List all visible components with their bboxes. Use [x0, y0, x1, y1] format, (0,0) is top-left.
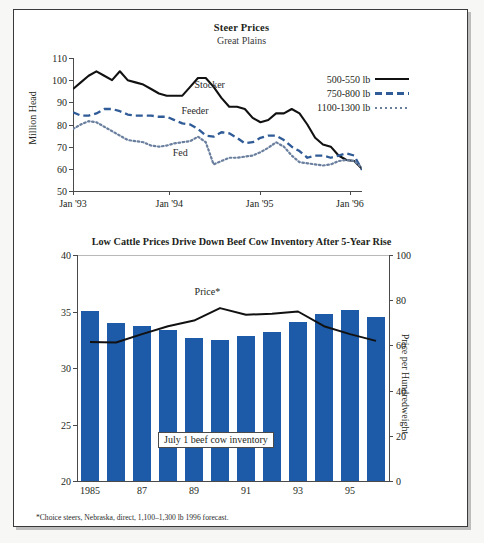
bottom-x-tick-label: 93: [293, 485, 303, 496]
top-series-inline-label-0: Stocker: [194, 79, 225, 90]
top-y-tick-label: 70: [57, 141, 67, 152]
bottom-right-y-tick-mark: [389, 436, 393, 437]
bottom-left-y-tick-mark: [73, 481, 77, 482]
legend-swatch-solid: [375, 74, 409, 84]
legend-label-750-800: 750-800 lb: [327, 88, 371, 99]
top-x-tick-mark: [350, 191, 351, 195]
top-y-tick-label: 50: [57, 186, 67, 197]
top-series-inline-label-1: Feeder: [181, 105, 208, 116]
steer-prices-chart: Steer Prices Great Plains Price per Hund…: [14, 10, 469, 225]
price-series-label: Price*: [195, 286, 221, 297]
price-line-path: [90, 308, 376, 342]
top-y-tick-label: 80: [57, 119, 67, 130]
bottom-chart-title: Low Cattle Prices Drive Down Beef Cow In…: [14, 236, 469, 247]
top-x-tick-mark: [169, 191, 170, 195]
top-y-tick-label: 90: [57, 97, 67, 108]
top-x-tick-label: Jan '93: [59, 198, 87, 209]
bottom-right-y-tick-mark: [389, 391, 393, 392]
bottom-chart-right-axis-line: [389, 255, 390, 481]
top-series-inline-label-2: Fed: [173, 147, 188, 158]
chart-footnote: *Choice steers, Nebraska, direct, 1,100–…: [36, 513, 229, 522]
bottom-x-tick-label: 89: [189, 485, 199, 496]
legend-entry-750-800[interactable]: 750-800 lb: [317, 86, 409, 100]
bottom-right-y-tick-label: 100: [396, 250, 411, 261]
bottom-chart-right-axis-label: Price per Hundredweight: [397, 304, 411, 464]
bottom-right-y-tick-mark: [389, 345, 393, 346]
top-x-tick-label: Jan '95: [246, 198, 274, 209]
top-x-tick-mark: [73, 191, 74, 195]
bottom-left-y-tick-label: 30: [61, 363, 71, 374]
bottom-chart-plot-area: Million Head 2025303540 020406080100 Pri…: [77, 255, 389, 481]
bottom-chart-left-axis-label: Million Head: [27, 43, 41, 193]
beef-cow-inventory-chart: Low Cattle Prices Drive Down Beef Cow In…: [14, 232, 469, 528]
legend-label-1100-1300: 1100-1300 lb: [317, 102, 370, 113]
legend-swatch-dotted: [375, 102, 409, 112]
bottom-right-y-tick-mark: [389, 481, 393, 482]
top-chart-subtitle: Great Plains: [14, 35, 469, 46]
legend-entry-1100-1300[interactable]: 1100-1300 lb: [317, 100, 409, 114]
bottom-right-y-tick-mark: [389, 300, 393, 301]
legend-entry-500-550[interactable]: 500-550 lb: [317, 72, 409, 86]
bottom-left-y-tick-label: 20: [61, 476, 71, 487]
bottom-x-tick-label: 91: [241, 485, 251, 496]
bottom-x-tick-label: 95: [345, 485, 355, 496]
top-y-tick-label: 60: [57, 163, 67, 174]
top-chart-title: Steer Prices: [14, 22, 469, 33]
bottom-left-y-tick-label: 25: [61, 419, 71, 430]
bottom-x-tick-label: 1985: [80, 485, 100, 496]
legend-label-500-550: 500-550 lb: [327, 74, 371, 85]
inventory-annotation-box: July 1 beef cow inventory: [158, 432, 274, 448]
bottom-x-tick-label: 87: [137, 485, 147, 496]
top-series-line-2: [73, 121, 362, 168]
top-y-tick-label: 100: [52, 75, 67, 86]
legend-swatch-dashed: [375, 88, 409, 98]
bottom-chart-x-axis-line: [77, 481, 390, 482]
bottom-left-y-tick-label: 40: [61, 250, 71, 261]
top-x-tick-label: Jan '96: [336, 198, 364, 209]
bottom-right-y-tick-mark: [389, 255, 393, 256]
top-y-tick-label: 110: [52, 53, 67, 64]
top-x-tick-mark: [260, 191, 261, 195]
bottom-right-y-tick-label: 0: [396, 476, 401, 487]
figure-page: Steer Prices Great Plains Price per Hund…: [0, 0, 484, 543]
top-x-tick-label: Jan '94: [155, 198, 183, 209]
figure-frame: Steer Prices Great Plains Price per Hund…: [13, 9, 468, 527]
bottom-left-y-tick-label: 35: [61, 306, 71, 317]
top-chart-legend: 500-550 lb 750-800 lb 1100-1300 lb: [317, 72, 409, 114]
top-chart-x-axis-line: [73, 191, 362, 192]
